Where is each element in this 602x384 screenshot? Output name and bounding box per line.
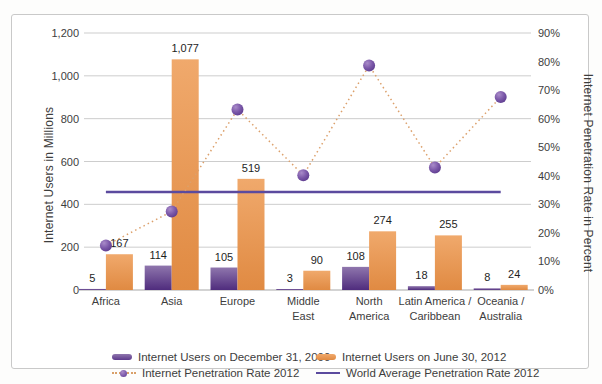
svg-text:114: 114 (149, 249, 167, 261)
svg-text:519: 519 (242, 162, 260, 174)
svg-text:80%: 80% (538, 56, 560, 68)
svg-text:50%: 50% (538, 141, 560, 153)
svg-text:600: 600 (61, 156, 79, 168)
chart-plot: 02004006008001,0001,2000%10%20%30%40%50%… (0, 0, 602, 384)
svg-text:40%: 40% (538, 170, 560, 182)
svg-text:8: 8 (484, 271, 490, 283)
svg-text:0%: 0% (538, 284, 554, 296)
svg-text:10%: 10% (538, 255, 560, 267)
svg-text:3: 3 (287, 272, 293, 284)
svg-text:MiddleEast: MiddleEast (287, 295, 319, 322)
svg-text:Latin America /Caribbean: Latin America /Caribbean (399, 295, 473, 322)
svg-text:105: 105 (215, 251, 233, 263)
svg-text:274: 274 (373, 214, 391, 226)
svg-text:200: 200 (61, 241, 79, 253)
svg-text:1,000: 1,000 (51, 70, 79, 82)
svg-text:90: 90 (311, 254, 323, 266)
svg-text:90%: 90% (538, 27, 560, 39)
svg-text:108: 108 (346, 250, 364, 262)
category-labels: AfricaAsiaEuropeMiddleEastNorthAmericaLa… (92, 295, 525, 322)
svg-text:Europe: Europe (220, 295, 255, 307)
svg-text:30%: 30% (538, 198, 560, 210)
svg-text:400: 400 (61, 198, 79, 210)
svg-text:1,200: 1,200 (51, 27, 79, 39)
svg-text:255: 255 (439, 218, 457, 230)
svg-text:1,077: 1,077 (171, 42, 199, 54)
bars: 51671141,07710551939010827418255824 (79, 42, 528, 290)
svg-text:800: 800 (61, 113, 79, 125)
svg-text:24: 24 (508, 268, 520, 280)
svg-text:Africa: Africa (92, 295, 121, 307)
svg-text:20%: 20% (538, 227, 560, 239)
svg-text:NorthAmerica: NorthAmerica (349, 295, 390, 322)
svg-text:18: 18 (415, 269, 427, 281)
svg-text:60%: 60% (538, 113, 560, 125)
svg-text:5: 5 (89, 272, 95, 284)
chart-figure: Internet Users in Millions Internet Pene… (0, 0, 602, 384)
svg-text:70%: 70% (538, 84, 560, 96)
svg-text:Oceania /Australia: Oceania /Australia (477, 295, 525, 322)
svg-text:Asia: Asia (161, 295, 183, 307)
right-ticks: 0%10%20%30%40%50%60%70%80%90% (538, 27, 560, 296)
